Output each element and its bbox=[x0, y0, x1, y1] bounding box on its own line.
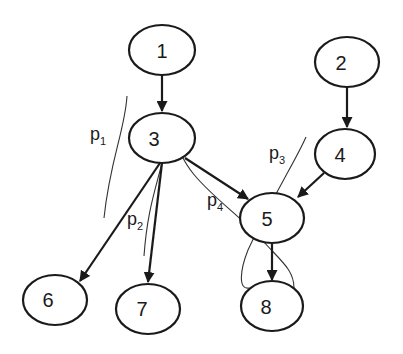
node-3: 3 bbox=[129, 113, 195, 163]
path-label-p4: p4 bbox=[207, 190, 223, 213]
path-label-p3-sub: 3 bbox=[279, 154, 285, 166]
edge-3-7 bbox=[148, 163, 162, 282]
node-1: 1 bbox=[129, 25, 195, 75]
path-label-p2-sub: 2 bbox=[137, 220, 143, 232]
node-3-label: 3 bbox=[148, 128, 159, 150]
path-label-p1: p1 bbox=[90, 124, 106, 147]
node-5-label: 5 bbox=[261, 208, 272, 230]
node-8-label: 8 bbox=[260, 296, 271, 318]
node-6-shape bbox=[23, 275, 87, 325]
path-label-p2: p2 bbox=[127, 209, 143, 232]
path-label-p3-base: p bbox=[269, 143, 279, 163]
node-6: 6 bbox=[23, 275, 87, 325]
path-label-p4-sub: 4 bbox=[217, 201, 223, 213]
graph-diagram: 1 2 3 4 5 6 7 8 p1 p2 p3 p4 bbox=[0, 0, 403, 354]
node-7-label: 7 bbox=[136, 298, 147, 320]
node-2-shape bbox=[315, 37, 379, 87]
node-8: 8 bbox=[241, 281, 303, 331]
edges bbox=[80, 75, 347, 282]
node-7-shape bbox=[116, 284, 180, 334]
node-1-label: 1 bbox=[156, 40, 167, 62]
path-curve-p1 bbox=[104, 96, 127, 218]
node-2-label: 2 bbox=[335, 52, 346, 74]
node-4: 4 bbox=[315, 129, 375, 179]
node-2: 2 bbox=[315, 37, 379, 87]
node-4-label: 4 bbox=[334, 144, 345, 166]
path-label-p2-base: p bbox=[127, 209, 137, 229]
node-5: 5 bbox=[240, 193, 304, 243]
node-6-label: 6 bbox=[42, 289, 53, 311]
node-8-shape bbox=[241, 281, 303, 331]
path-label-p1-base: p bbox=[90, 124, 100, 144]
node-3-shape bbox=[129, 113, 195, 163]
path-label-p4-base: p bbox=[207, 190, 217, 210]
path-label-p3: p3 bbox=[269, 143, 285, 166]
path-label-p1-sub: 1 bbox=[100, 135, 106, 147]
node-7: 7 bbox=[116, 284, 180, 334]
edge-4-5 bbox=[298, 173, 324, 197]
